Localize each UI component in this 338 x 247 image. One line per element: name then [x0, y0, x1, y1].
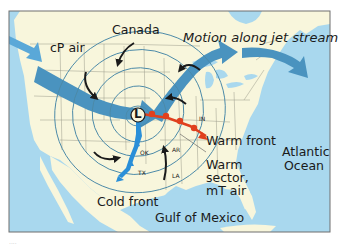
- label-state-tx: TX: [138, 170, 146, 176]
- label-warm-sector-3: mT air: [206, 185, 246, 198]
- label-ocean: Ocean: [284, 160, 324, 173]
- label-warm-front: Warm front: [206, 135, 276, 148]
- caption-fragment: ....: [9, 238, 17, 245]
- label-state-la: LA: [172, 173, 180, 179]
- label-motion-jet-stream: Motion along jet stream: [183, 31, 338, 44]
- label-gulf-of-mexico: Gulf of Mexico: [155, 212, 244, 225]
- label-canada: Canada: [112, 24, 160, 37]
- label-state-ar: AR: [172, 147, 180, 153]
- label-state-ok: OK: [140, 150, 149, 156]
- label-low-pressure: L: [134, 108, 142, 120]
- label-cold-front: Cold front: [97, 196, 159, 209]
- label-cp-air: cP air: [50, 42, 85, 55]
- label-state-in: IN: [199, 116, 205, 122]
- label-atlantic: Atlantic: [282, 146, 330, 159]
